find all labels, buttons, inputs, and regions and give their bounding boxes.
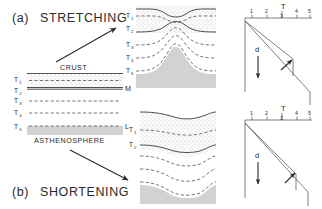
stretch-sub-T5: 5 bbox=[131, 71, 134, 76]
lithosphere-thermal-diagram: (a) STRETCHING (b) SHORTENING CRUST T 1 … bbox=[0, 0, 322, 209]
stretch-label-T3: T bbox=[126, 41, 130, 48]
isotherm-label-T2: T bbox=[14, 87, 18, 94]
stretch-axis-d-label: d bbox=[255, 45, 259, 54]
isotherm-sub-T2: 2 bbox=[19, 91, 22, 96]
shorten-tick-2: 2 bbox=[265, 110, 268, 116]
asthenosphere-band bbox=[27, 126, 123, 135]
panel-a-tag: (a) bbox=[12, 11, 29, 25]
isotherm-sub-T5: 5 bbox=[19, 127, 22, 132]
stretch-label-T4: T bbox=[126, 54, 130, 61]
stretch-label-T1: T bbox=[126, 12, 130, 19]
panel-a-title: STRETCHING bbox=[40, 11, 127, 25]
panel-b-tag: (b) bbox=[12, 185, 29, 199]
stretch-tick-5: 5 bbox=[308, 8, 311, 14]
stretch-shift-arrow bbox=[281, 60, 292, 70]
isotherm-sub-T1: 1 bbox=[19, 80, 22, 85]
reference-lithosphere-column: CRUST T 1 T 2 T 3 T 4 T 5 M L ASTHENOSPH… bbox=[14, 63, 132, 145]
stretch-tick-4: 4 bbox=[295, 8, 298, 14]
isotherm-sub-T3: 3 bbox=[19, 101, 22, 106]
stretching-arrow bbox=[56, 28, 116, 62]
stretching-geotherm-graph: T 1 2 3 4 5 d bbox=[245, 2, 312, 105]
stretch-sub-T4: 4 bbox=[131, 58, 134, 63]
panel-b-title: SHORTENING bbox=[40, 185, 129, 199]
shorten-sub-T1: 1 bbox=[134, 130, 137, 135]
shorten-label-T2: T bbox=[129, 141, 133, 148]
isotherm-sub-T4: 4 bbox=[19, 113, 22, 118]
shorten-tick-3: 3 bbox=[280, 115, 283, 121]
shorten-axis-d-label: d bbox=[255, 151, 259, 160]
reference-isotherm-labels: T 1 T 2 T 3 T 4 T 5 bbox=[14, 76, 22, 132]
shorten-sub-T2: 2 bbox=[134, 145, 137, 150]
isotherm-label-T5: T bbox=[14, 123, 18, 130]
shortening-arrow bbox=[70, 150, 128, 180]
stretch-tick-1: 1 bbox=[250, 8, 253, 14]
panel-a-heading: (a) STRETCHING bbox=[12, 11, 127, 25]
shortening-cross-section: T 1 T 2 bbox=[129, 112, 216, 204]
stretch-tick-2: 2 bbox=[265, 8, 268, 14]
isotherm-label-T3: T bbox=[14, 97, 18, 104]
shorten-tick-4: 4 bbox=[295, 110, 298, 116]
stretch-tick-3: 3 bbox=[280, 13, 283, 19]
shortening-isotherm-lower2 bbox=[140, 169, 216, 181]
stretching-asthenosphere bbox=[136, 47, 216, 88]
shortening-isotherm-labels: T 1 T 2 bbox=[129, 126, 137, 150]
moho-marker-label: M bbox=[125, 84, 132, 93]
asthenosphere-label: ASTHENOSPHERE bbox=[34, 136, 105, 145]
shorten-shift-arrow bbox=[285, 173, 295, 183]
stretch-sub-T2: 2 bbox=[131, 29, 134, 34]
shortening-isotherm-lower1 bbox=[140, 156, 216, 166]
stretch-initial-geotherm bbox=[245, 21, 310, 92]
stretch-sub-T1: 1 bbox=[131, 16, 134, 21]
stretch-sub-T3: 3 bbox=[131, 45, 134, 50]
panel-b-heading: (b) SHORTENING bbox=[12, 185, 129, 199]
shorten-tick-1: 1 bbox=[250, 110, 253, 116]
stretching-cross-section: T 1 T 2 T 3 T 4 T 5 bbox=[126, 5, 216, 88]
shorten-axis-T-label: T bbox=[281, 104, 286, 113]
stretch-axis-T-label: T bbox=[281, 2, 286, 11]
isotherm-label-T1: T bbox=[14, 76, 18, 83]
crust-label: CRUST bbox=[60, 63, 87, 72]
stretch-label-T5: T bbox=[126, 67, 130, 74]
stretch-perturbed-geotherm bbox=[245, 21, 293, 59]
shorten-perturbed-geotherm bbox=[245, 123, 296, 174]
shorten-label-T1: T bbox=[129, 126, 133, 133]
isotherm-label-T4: T bbox=[14, 109, 18, 116]
stretch-label-T2: T bbox=[126, 25, 130, 32]
shortening-geotherm-graph: T 1 2 3 4 5 d bbox=[245, 104, 312, 206]
shorten-tick-5: 5 bbox=[308, 110, 311, 116]
